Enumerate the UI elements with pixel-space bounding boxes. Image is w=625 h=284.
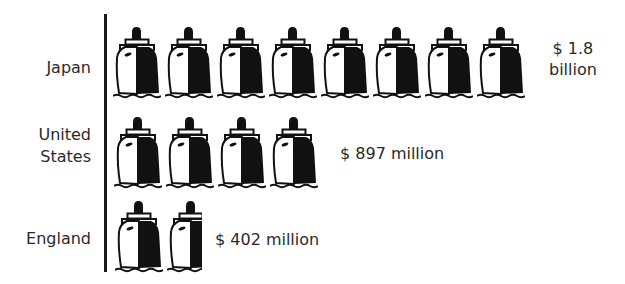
value-label-japan: $ 1.8 billion <box>549 38 597 80</box>
ship-icon <box>166 116 214 190</box>
ship-icon <box>321 26 369 100</box>
ship-icon <box>477 26 525 100</box>
value-label-england: $ 402 million <box>215 229 319 250</box>
ship-icon <box>113 26 161 100</box>
ship-icon <box>373 26 421 100</box>
row-label-england: England <box>26 228 91 250</box>
row-label-united-states: United States <box>38 124 91 168</box>
ship-icon <box>115 200 163 274</box>
ship-icon <box>269 26 317 100</box>
value-label-united-states: $ 897 million <box>340 143 444 164</box>
ship-icon <box>425 26 473 100</box>
category-axis-line <box>104 14 107 272</box>
ship-icon <box>165 26 213 100</box>
ship-icon <box>270 116 318 190</box>
ship-icon-partial <box>167 200 202 274</box>
ship-icon <box>114 116 162 190</box>
ship-icon <box>218 116 266 190</box>
ship-icon <box>217 26 265 100</box>
row-label-japan: Japan <box>46 57 91 79</box>
